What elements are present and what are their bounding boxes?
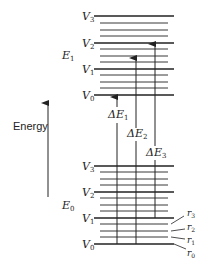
energy-level-diagram: Energy V3 V2 V1 V0 E1 V3 V2 V1 V0 E0 ΔE1… bbox=[0, 0, 208, 272]
upper-state-levels bbox=[94, 16, 174, 95]
svg-text:V1: V1 bbox=[82, 63, 94, 77]
svg-text:r3: r3 bbox=[187, 208, 195, 219]
transition-1-label: ΔE1 bbox=[107, 108, 128, 122]
transition-arrows bbox=[117, 44, 155, 244]
rotational-labels: r3 r2 r1 r0 bbox=[187, 208, 195, 259]
lower-state-levels bbox=[94, 166, 174, 244]
transition-2-label: ΔE2 bbox=[126, 127, 147, 141]
lower-state-label: E0 bbox=[61, 199, 75, 213]
transition-labels: ΔE1 ΔE2 ΔE3 bbox=[107, 108, 166, 160]
energy-axis-label: Energy bbox=[13, 120, 48, 132]
transition-3-label: ΔE3 bbox=[145, 146, 166, 160]
r2-pointer-icon bbox=[171, 229, 185, 231]
svg-text:V0: V0 bbox=[82, 238, 94, 252]
svg-text:V2: V2 bbox=[82, 186, 94, 200]
upper-level-labels: V3 V2 V1 V0 E1 bbox=[61, 10, 94, 103]
svg-text:V1: V1 bbox=[82, 212, 94, 226]
svg-text:r1: r1 bbox=[187, 235, 195, 246]
svg-text:V0: V0 bbox=[82, 89, 94, 103]
svg-text:V3: V3 bbox=[82, 10, 94, 24]
upper-state-label: E1 bbox=[61, 49, 75, 63]
svg-text:r2: r2 bbox=[187, 222, 195, 233]
svg-text:r0: r0 bbox=[187, 248, 195, 259]
r1-pointer-icon bbox=[171, 237, 185, 239]
r0-pointer-icon bbox=[174, 244, 186, 249]
svg-text:V2: V2 bbox=[82, 37, 94, 51]
lower-level-labels: V3 V2 V1 V0 E0 bbox=[61, 160, 94, 252]
svg-text:V3: V3 bbox=[82, 160, 94, 174]
